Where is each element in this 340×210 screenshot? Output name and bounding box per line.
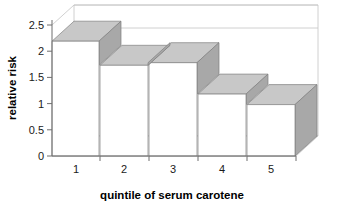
y-tick-label-0: 0 (38, 150, 44, 162)
y-tick-label-2.5: 2.5 (29, 19, 44, 31)
x-tick-label-5: 5 (268, 163, 274, 175)
relative-risk-3d-bar-chart: 2.5 2 1.5 1 0.5 0 1 2 3 4 5 quintile of … (0, 0, 340, 210)
x-tick-label-2: 2 (121, 163, 127, 175)
x-tick-label-3: 3 (170, 163, 176, 175)
x-axis-title: quintile of serum carotene (100, 189, 244, 201)
y-tick-label-2: 2 (38, 45, 44, 57)
chart-container: 2.5 2 1.5 1 0.5 0 1 2 3 4 5 quintile of … (0, 0, 340, 210)
bar-1-front-face (52, 41, 99, 156)
bar-4-front-face (198, 94, 246, 156)
x-tick-label-4: 4 (219, 163, 225, 175)
bar-group-5[interactable] (247, 85, 317, 156)
bar-3-front-face (149, 63, 197, 156)
y-axis-title: relative risk (6, 55, 18, 120)
x-tick-label-1: 1 (73, 163, 79, 175)
y-tick-label-1: 1 (38, 98, 44, 110)
y-tick-label-1.5: 1.5 (29, 71, 44, 83)
bar-2-front-face (100, 65, 148, 156)
y-tick-label-0.5: 0.5 (29, 124, 44, 136)
bar-5-front-face (247, 105, 295, 156)
